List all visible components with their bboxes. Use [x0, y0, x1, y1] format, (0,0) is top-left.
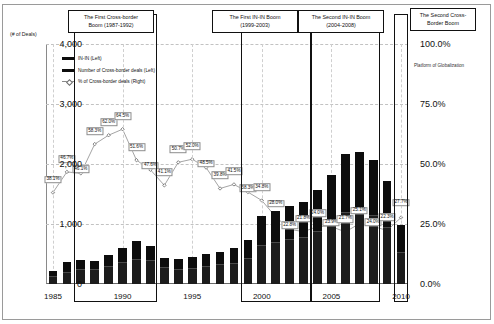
bar-segment-in-in	[90, 269, 99, 284]
bar-segment-in-in	[355, 210, 364, 284]
bar-1989	[104, 255, 113, 284]
bar-segment-in-in	[160, 267, 169, 284]
data-label-1991: 51.6%	[128, 143, 145, 151]
x-axis-tick: 2005	[323, 292, 341, 301]
bar-segment-in-in	[313, 231, 322, 284]
bar-1998	[230, 248, 239, 284]
x-axis-tick: 2010	[392, 292, 410, 301]
bar-2002	[285, 206, 294, 284]
y-axis-tick-right: 25.0%	[420, 219, 480, 229]
annotation-line-2: (2004-2008)	[300, 21, 382, 29]
bar-segment-cross-border	[341, 154, 350, 211]
legend-item-in-in: IN-IN (Left)	[62, 56, 155, 61]
x-axis-tick: 1995	[183, 292, 201, 301]
bar-segment-in-in	[285, 239, 294, 284]
gridline	[46, 224, 408, 225]
annotation-line-2: Border Boom	[412, 19, 474, 27]
legend-swatch-cross-border	[62, 69, 75, 72]
data-label-1988: 58.3%	[86, 127, 103, 135]
bar-2004	[313, 190, 322, 284]
bar-1996	[202, 254, 211, 284]
data-label-1998: 41.5%	[225, 168, 242, 176]
annotation-line-1: The Second IN-IN Boom	[300, 13, 382, 21]
platform-of-globalization-note: Platform of Globalization	[414, 63, 464, 68]
data-label-2010: 27.7%	[393, 199, 410, 207]
bar-segment-cross-border	[118, 248, 127, 262]
data-label-2004: 24.0%	[309, 210, 326, 218]
bar-1992	[146, 246, 155, 284]
legend-label-in-in: IN-IN (Left)	[78, 56, 102, 61]
annotation-line-2: (1999-2003)	[214, 21, 296, 29]
bar-segment-in-in	[104, 266, 113, 284]
bar-segment-in-in	[216, 264, 225, 284]
x-axis-tick: 2000	[253, 292, 271, 301]
gridline	[46, 164, 408, 165]
annotation-first-cross-border-boom: The First Cross-borderBoom (1987-1992)	[68, 10, 154, 33]
bar-1988	[90, 261, 99, 284]
annotation-line-1: The First IN-IN Boom	[214, 13, 296, 21]
bar-segment-in-in	[132, 259, 141, 284]
bar-segment-in-in	[327, 222, 336, 284]
bar-segment-in-in	[230, 263, 239, 284]
y-axis-tick-left: 4,000	[36, 39, 82, 49]
annotation-second-cross-border-boom: The Second Cross-Border Boom	[410, 8, 476, 31]
bar-segment-in-in	[118, 262, 127, 284]
annotation-line-1: The Second Cross-	[412, 11, 474, 19]
legend-swatch-in-in	[62, 57, 75, 60]
bar-segment-in-in	[271, 242, 280, 284]
bar-2010	[397, 225, 406, 284]
data-label-1985: 38.1%	[44, 176, 61, 184]
y-axis-tick-right: 75.0%	[420, 99, 480, 109]
bar-segment-cross-border	[90, 261, 99, 269]
bar-segment-in-in	[146, 260, 155, 284]
gridline	[46, 44, 408, 45]
bar-1999	[244, 240, 253, 284]
bar-1995	[188, 257, 197, 284]
bar-segment-cross-border	[160, 258, 169, 268]
annotation-line-1: The First Cross-border	[70, 13, 152, 21]
data-label-2006: 21.7%	[337, 215, 354, 223]
data-label-2002: 22.8%	[281, 221, 298, 229]
bar-segment-cross-border	[104, 255, 113, 266]
data-label-2000: 34.8%	[253, 184, 270, 192]
bar-1991	[132, 241, 141, 284]
chart-legend: IN-IN (Left) Number of Cross-border deal…	[62, 56, 155, 84]
legend-swatch-percentage-line	[62, 81, 75, 82]
data-label-2001: 28.0%	[267, 200, 284, 208]
bar-segment-cross-border	[244, 240, 253, 258]
bar-segment-cross-border	[397, 225, 406, 252]
data-label-1996: 48.5%	[198, 160, 215, 168]
bar-1993	[160, 258, 169, 284]
bar-1990	[118, 248, 127, 284]
y-axis-tick-left: 1,000	[36, 219, 82, 229]
bar-1997	[216, 252, 225, 284]
bar-2005	[327, 175, 336, 284]
bar-segment-in-in	[383, 227, 392, 284]
bar-2001	[271, 211, 280, 284]
bar-segment-in-in	[397, 252, 406, 284]
bar-segment-cross-border	[369, 160, 378, 215]
bar-segment-cross-border	[132, 241, 141, 259]
vertical-gridline	[192, 44, 193, 284]
legend-item-cross-border-deals: Number of Cross-border deals (Left)	[62, 68, 155, 73]
y-axis-tick-left: 0	[36, 279, 82, 289]
bar-2000	[257, 216, 266, 284]
bar-2009	[383, 181, 392, 284]
y-axis-tick-right: 50.0%	[420, 159, 480, 169]
bar-segment-cross-border	[202, 254, 211, 266]
bar-segment-in-in	[188, 268, 197, 284]
bar-segment-cross-border	[188, 257, 197, 268]
bar-segment-cross-border	[76, 260, 85, 269]
annotation-first-in-in-boom: The First IN-IN Boom(1999-2003)	[212, 10, 298, 33]
bar-segment-in-in	[299, 237, 308, 284]
data-label-1993: 41.1%	[156, 169, 173, 177]
data-label-2007: 25.1%	[351, 207, 368, 215]
data-label-2009: 22.3%	[379, 214, 396, 222]
y-axis-tick-right: 100.0%	[420, 39, 480, 49]
bar-2007	[355, 152, 364, 284]
bar-segment-cross-border	[146, 246, 155, 261]
legend-label-percentage: % of Cross-border deals (Right)	[78, 79, 145, 84]
chart-container: (# of Deals) Platform of Globalization 3…	[0, 0, 494, 324]
x-axis-tick: 1985	[44, 292, 62, 301]
bar-segment-cross-border	[271, 211, 280, 242]
